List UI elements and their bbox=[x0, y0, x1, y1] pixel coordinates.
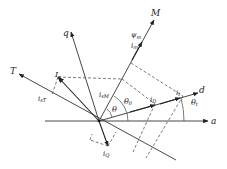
t-axis bbox=[19, 74, 176, 160]
label-ism: isM bbox=[99, 91, 110, 99]
label-iq: iQ bbox=[103, 150, 109, 158]
label-psi-m: ψm bbox=[131, 31, 142, 40]
proj-is-to-m bbox=[58, 77, 122, 79]
label-id: iD bbox=[150, 96, 156, 104]
proj-d2-down bbox=[146, 96, 183, 158]
proj-iq-3 bbox=[90, 134, 92, 140]
proj-d1-down bbox=[133, 104, 155, 152]
label-t: T bbox=[10, 66, 17, 76]
proj-is-to-t bbox=[52, 77, 58, 95]
label-it: it bbox=[176, 89, 181, 97]
label-is: Is bbox=[54, 70, 61, 80]
label-ist: isT bbox=[38, 95, 47, 103]
id-vector bbox=[130, 105, 155, 112]
origin-point bbox=[98, 120, 101, 123]
q-axis bbox=[71, 32, 99, 121]
label-a: a bbox=[211, 116, 216, 126]
label-m: M bbox=[150, 8, 161, 18]
label-theta: θ bbox=[112, 105, 117, 114]
proj-iq-2 bbox=[108, 132, 116, 146]
label-im: im bbox=[131, 42, 138, 50]
iq-vector bbox=[99, 121, 108, 146]
label-theta0: θ0 bbox=[124, 97, 133, 106]
vector-diagram: a d M q T Is ψm im it iD iQ isM isT θ θ0… bbox=[0, 0, 227, 169]
label-thetat: θt bbox=[191, 98, 199, 107]
label-d: d bbox=[199, 85, 205, 95]
it-vector bbox=[160, 98, 180, 104]
label-q: q bbox=[63, 28, 69, 38]
thetat-arc bbox=[181, 98, 184, 121]
proj-iq-1 bbox=[90, 140, 108, 146]
